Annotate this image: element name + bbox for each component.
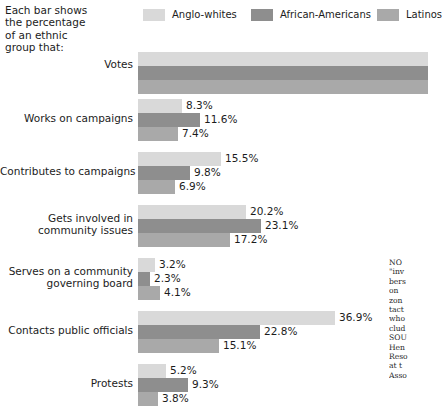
source-note-line: tact (389, 305, 429, 314)
bar-group-label: Works on campaigns (0, 112, 133, 124)
bar-value-label: 17.2% (234, 232, 267, 247)
bar-group: Gets involved incommunity issues20.2%23.… (0, 205, 418, 247)
bar-value-label: 3.8% (162, 391, 189, 406)
bar-value-label: 22.8% (264, 324, 297, 339)
source-note-line: on (389, 286, 429, 295)
bar-group-label: Contributes to campaigns (0, 165, 133, 177)
source-note-line: SOU (389, 333, 429, 342)
bar-rect[interactable] (138, 52, 428, 66)
source-note-line: who (389, 314, 429, 323)
bar-value-label: 23.1% (265, 218, 298, 233)
bar-rect[interactable] (138, 258, 155, 272)
bar-rect[interactable] (138, 180, 175, 194)
bar-rect[interactable] (138, 311, 335, 325)
bar-group: Votes (0, 52, 418, 94)
bar-value-label: 9.8% (194, 165, 221, 180)
bar-group-label-line: governing board (0, 277, 133, 289)
source-note-column: NO"invberson zontactwhocludSOUHenResoat … (389, 258, 429, 408)
bar-group-label-line: Serves on a community (0, 265, 133, 277)
bar-value-label: 15.5% (225, 151, 258, 166)
bar-value-label: 36.9% (339, 310, 372, 325)
bar-rect[interactable] (138, 113, 200, 127)
bar-value-label: 6.9% (179, 179, 206, 194)
bar-rect[interactable] (138, 233, 230, 247)
bar-value-label: 4.1% (164, 285, 191, 300)
bar-rect[interactable] (138, 364, 166, 378)
bar-group-label: Gets involved incommunity issues (0, 212, 133, 237)
bar-rect[interactable] (138, 66, 428, 80)
bar-group-label: Protests (0, 377, 133, 389)
bar-value-label: 8.3% (186, 98, 213, 113)
bar-rect[interactable] (138, 325, 260, 339)
bar-group: Works on campaigns8.3%11.6%7.4% (0, 99, 418, 141)
bar-rect[interactable] (138, 219, 261, 233)
source-note-line: NO (389, 258, 429, 267)
bar-value-label: 7.4% (182, 126, 209, 141)
bar-group-label-line: Votes (0, 58, 133, 70)
source-note-line: "inv (389, 267, 429, 276)
bar-rect[interactable] (138, 272, 150, 286)
bar-group-label: Serves on a communitygoverning board (0, 265, 133, 290)
bar-group: Contributes to campaigns15.5%9.8%6.9% (0, 152, 418, 194)
bar-rect[interactable] (138, 378, 188, 392)
bar-group-label-line: community issues (0, 224, 133, 236)
source-note-line: at t (389, 361, 429, 370)
bar-value-label: 3.2% (159, 257, 186, 272)
bar-group-label-line: Contributes to campaigns (0, 165, 133, 177)
source-note-line: Asso (389, 371, 429, 380)
bar-rect[interactable] (138, 152, 221, 166)
bar-rect[interactable] (138, 80, 428, 94)
bar-value-label: 2.3% (154, 271, 181, 286)
bar-group-label-line: Works on campaigns (0, 112, 133, 124)
source-note-line: Reso (389, 352, 429, 361)
bar-rect[interactable] (138, 286, 160, 300)
bar-value-label: 20.2% (250, 204, 283, 219)
bar-value-label: 11.6% (204, 112, 237, 127)
bar-value-label: 9.3% (192, 377, 219, 392)
bar-group: Serves on a communitygoverning board3.2%… (0, 258, 418, 300)
bar-group: Protests5.2%9.3%3.8% (0, 364, 418, 406)
source-note-line: bers (389, 277, 429, 286)
bar-rect[interactable] (138, 99, 182, 113)
bar-group-label-line: Gets involved in (0, 212, 133, 224)
bar-rect[interactable] (138, 166, 190, 180)
bar-rect[interactable] (138, 392, 158, 406)
bar-group-label: Contacts public officials (0, 324, 133, 336)
source-note-line: zon (389, 296, 429, 305)
bar-rect[interactable] (138, 339, 219, 353)
bar-group: Contacts public officials36.9%22.8%15.1% (0, 311, 418, 353)
bar-rect[interactable] (138, 205, 246, 219)
bar-group-label-line: Contacts public officials (0, 324, 133, 336)
bar-rect[interactable] (138, 127, 178, 141)
bar-group-label: Votes (0, 58, 133, 70)
bar-value-label: 15.1% (223, 338, 256, 353)
bar-value-label: 5.2% (170, 363, 197, 378)
source-note-line: Hen (389, 343, 429, 352)
bar-group-label-line: Protests (0, 377, 133, 389)
source-note-line: clud (389, 324, 429, 333)
